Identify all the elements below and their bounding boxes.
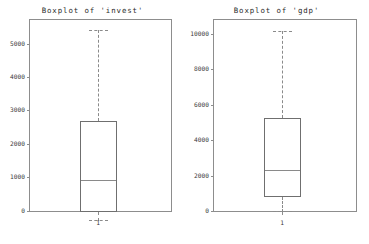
ytick-mark-gdp-0	[211, 211, 214, 212]
ytick-label-gdp-4000: 4000	[182, 136, 209, 143]
ytick-mark-invest-2000	[27, 144, 30, 145]
whisker-lower-gdp-1	[282, 197, 283, 212]
xtick-mark-invest-1	[98, 212, 99, 215]
plot-frame-invest	[29, 19, 172, 212]
chart-title-invest: Boxplot of 'invest'	[0, 6, 185, 15]
chart-title-gdp: Boxplot of 'gdp'	[184, 6, 369, 15]
ytick-mark-gdp-10000	[211, 34, 214, 35]
ytick-mark-gdp-6000	[211, 105, 214, 106]
box-invest-1	[80, 121, 117, 212]
boxplot-panel-invest: Boxplot of 'invest' 5000 4000 3	[0, 0, 185, 244]
whisker-cap-upper-invest-1	[89, 30, 108, 31]
ytick-label-invest-0: 0	[0, 207, 25, 214]
ytick-label-gdp-2000: 2000	[182, 172, 209, 179]
median-line-invest-1	[81, 180, 116, 181]
ytick-label-invest-1000: 1000	[0, 173, 25, 180]
ytick-mark-invest-3000	[27, 110, 30, 111]
boxplot-panel-gdp: Boxplot of 'gdp' 10000 8000 600	[184, 0, 369, 244]
ytick-mark-invest-5000	[27, 44, 30, 45]
ytick-mark-gdp-4000	[211, 140, 214, 141]
whisker-cap-upper-gdp-1	[273, 31, 292, 32]
ytick-label-gdp-10000: 10000	[182, 30, 209, 37]
ytick-mark-gdp-2000	[211, 176, 214, 177]
ytick-label-invest-5000: 5000	[0, 40, 25, 47]
ytick-mark-invest-1000	[27, 177, 30, 178]
ytick-label-gdp-0: 0	[182, 207, 209, 214]
xtick-label-gdp-1: 1	[280, 219, 284, 226]
ytick-label-invest-2000: 2000	[0, 140, 25, 147]
ytick-label-gdp-6000: 6000	[182, 101, 209, 108]
figure-canvas: Boxplot of 'invest' 5000 4000 3	[0, 0, 369, 244]
whisker-upper-invest-1	[98, 30, 99, 121]
ytick-label-gdp-8000: 8000	[182, 65, 209, 72]
xtick-mark-gdp-1	[282, 212, 283, 215]
median-line-gdp-1	[265, 170, 300, 171]
ytick-label-invest-3000: 3000	[0, 106, 25, 113]
ytick-mark-invest-4000	[27, 77, 30, 78]
box-gdp-1	[264, 118, 301, 197]
whisker-upper-gdp-1	[282, 31, 283, 118]
plot-frame-gdp	[213, 19, 357, 212]
ytick-mark-gdp-8000	[211, 69, 214, 70]
ytick-label-invest-4000: 4000	[0, 73, 25, 80]
xtick-label-invest-1: 1	[96, 219, 100, 226]
ytick-mark-invest-0	[27, 211, 30, 212]
